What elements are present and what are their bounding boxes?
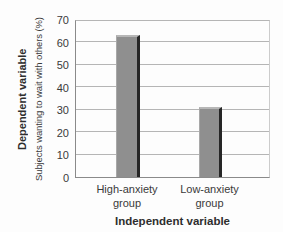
gridline bbox=[76, 131, 269, 132]
y-tick-label: 40 bbox=[38, 83, 69, 94]
y-tick-label: 20 bbox=[38, 128, 69, 139]
y-tick-label: 30 bbox=[38, 105, 69, 116]
gridline bbox=[76, 109, 269, 110]
y-tick-label: 10 bbox=[38, 150, 69, 161]
y-tick-label: 60 bbox=[38, 38, 69, 49]
y-tick-label: 0 bbox=[38, 173, 69, 184]
plot-area bbox=[75, 20, 270, 178]
gridline bbox=[76, 41, 269, 42]
bar-chart-figure: Dependent variable Subjects wanting to w… bbox=[0, 0, 283, 232]
y-axis-label-subjects-wanting: Subjects wanting to wait with others (%) bbox=[34, 9, 44, 189]
y-tick-label: 70 bbox=[38, 15, 69, 26]
y-axis-title-dependent-variable: Dependent variable bbox=[17, 20, 28, 178]
bar-high-anxiety bbox=[116, 35, 140, 177]
x-axis-title-independent-variable: Independent variable bbox=[75, 215, 270, 227]
gridline bbox=[76, 154, 269, 155]
gridline bbox=[76, 86, 269, 87]
x-category-label: Low-anxiety group bbox=[155, 182, 265, 210]
bar-low-anxiety bbox=[199, 107, 222, 177]
gridline bbox=[76, 64, 269, 65]
y-tick-label: 50 bbox=[38, 60, 69, 71]
